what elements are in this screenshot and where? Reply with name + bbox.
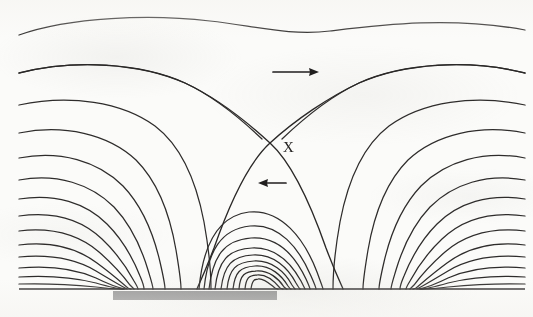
leftward-flow-arrow	[258, 179, 286, 187]
fieldline-left-3	[19, 100, 211, 289]
field-line-canvas: X	[0, 0, 533, 317]
fieldline-right-6	[391, 178, 525, 289]
fieldline-left-1	[19, 18, 525, 35]
fieldline-right-7	[400, 197, 525, 289]
fieldline-left-2	[19, 65, 262, 139]
shaded-plate	[113, 291, 277, 300]
fieldline-right-9	[410, 230, 525, 289]
fieldline-right-3	[333, 100, 525, 289]
arch-10	[251, 279, 278, 289]
fieldline-left-6	[19, 178, 153, 289]
closed-arcade-group	[199, 212, 323, 289]
fieldline-right-2	[282, 65, 525, 139]
fieldline-left-7	[19, 197, 144, 289]
rightward-flow-arrow	[273, 68, 319, 76]
arch-5	[221, 255, 300, 289]
field-line-figure: X	[0, 0, 533, 317]
rightward-flow-arrow-head	[309, 68, 319, 76]
arch-1	[199, 212, 323, 289]
xpoint-label: X	[283, 139, 294, 155]
fieldline-left-9	[19, 230, 134, 289]
separatrix-group	[19, 65, 525, 289]
right-overlying-fieldlines	[282, 65, 525, 289]
separatrix-left-branch	[19, 65, 343, 289]
leftward-flow-arrow-head	[258, 179, 268, 187]
